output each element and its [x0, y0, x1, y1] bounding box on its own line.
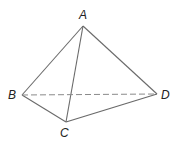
edge-cd [66, 94, 157, 122]
edge-ad [83, 26, 157, 94]
vertex-label-a: A [78, 8, 87, 22]
edge-ac [66, 26, 83, 122]
vertex-label-c: C [60, 126, 69, 140]
edge-bd-hidden [22, 94, 157, 95]
vertex-label-b: B [8, 88, 16, 102]
edge-bc [22, 95, 66, 122]
edge-ab [22, 26, 83, 95]
vertex-label-d: D [161, 88, 170, 102]
tetrahedron-diagram: A B C D [0, 0, 179, 144]
